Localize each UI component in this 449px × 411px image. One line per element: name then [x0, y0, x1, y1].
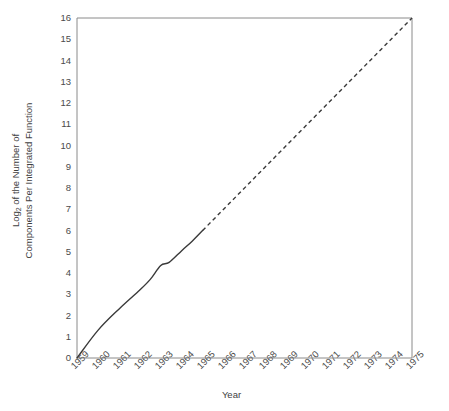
chart-figure: Log2 of the Number of Components Per Int… [0, 0, 449, 411]
x-axis-label: Year [0, 389, 449, 400]
plot-canvas [0, 0, 449, 411]
data-line-observed [77, 231, 203, 359]
data-line-extrapolated [203, 18, 412, 231]
x-axis-label-text: Year [222, 389, 241, 400]
